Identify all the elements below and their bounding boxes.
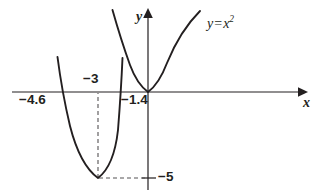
curve-y-equals-x-squared [113,10,201,92]
x-axis [12,87,308,97]
equation-operator: = [213,16,223,31]
parabola-figure: −4.6 −3 −1.4 −5 x y y=x2 [0,0,321,195]
x-intercept-right-label: −1.4 [121,93,148,107]
x-intercept-left-label: −4.6 [19,93,46,107]
plot-canvas [0,0,321,195]
equation-label: y=x2 [207,17,234,31]
equation-exponent: 2 [229,14,234,24]
x-axis-label: x [303,96,310,110]
y-axis-arrowhead [143,8,153,18]
vertex-y-label: −5 [158,170,173,184]
vertex-x-label: −3 [83,72,98,86]
y-axis-label: y [136,10,142,24]
